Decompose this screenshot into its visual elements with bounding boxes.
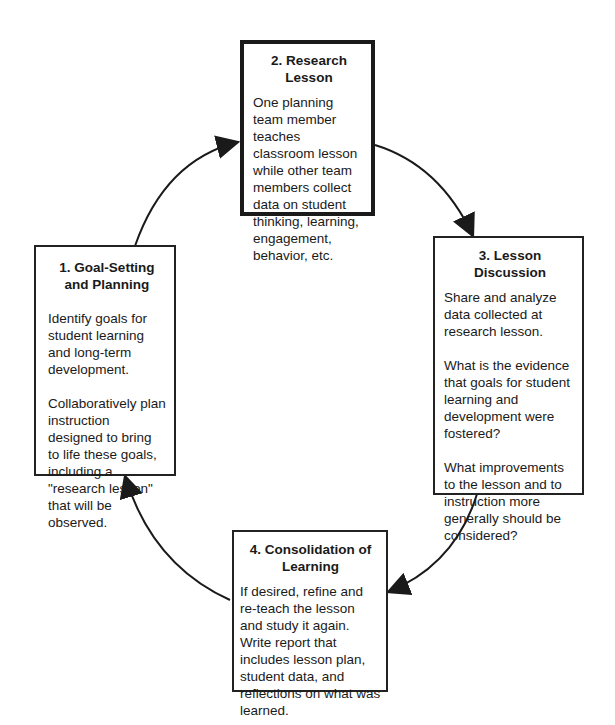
stage-paragraph: What improvements to the lesson and to i… <box>444 459 576 544</box>
stage-consolidation: 4. Consolidation of Learning If desired,… <box>232 530 388 692</box>
stage-paragraph: What is the evidence that goals for stud… <box>444 357 576 442</box>
stage-paragraph: Share and analyze data collected at rese… <box>444 289 576 340</box>
stage-paragraph: If desired, refine and re-teach the less… <box>240 583 381 719</box>
stage-title-line: 1. Goal-Setting <box>48 259 166 276</box>
stage-body: If desired, refine and re-teach the less… <box>240 583 381 719</box>
stage-paragraph: Collaboratively plan instruction designe… <box>48 395 166 531</box>
stage-body: Identify goals for student learning and … <box>48 310 166 531</box>
stage-research-lesson: 2. Research Lesson One planning team mem… <box>240 40 375 216</box>
stage-title-line: and Planning <box>48 276 166 293</box>
stage-lesson-discussion: 3. Lesson Discussion Share and analyze d… <box>433 236 584 495</box>
stage-title: 2. Research Lesson <box>253 52 365 86</box>
stage-title-line: 4. Consolidation of <box>240 541 381 558</box>
stage-goal-setting: 1. Goal-Setting and Planning Identify go… <box>34 245 176 476</box>
stage-title-line: Learning <box>240 558 381 575</box>
stage-title: 4. Consolidation of Learning <box>240 541 381 575</box>
stage-paragraph: Identify goals for student learning and … <box>48 310 166 378</box>
stage-body: Share and analyze data collected at rese… <box>444 289 576 544</box>
stage-title: 3. Lesson Discussion <box>444 247 576 281</box>
stage-title: 1. Goal-Setting and Planning <box>48 259 166 293</box>
stage-body: One planning team member teaches classro… <box>253 94 365 264</box>
stage-paragraph: One planning team member teaches classro… <box>253 94 365 264</box>
arrow-goal-to-research <box>135 142 238 246</box>
arrow-research-to-discussion <box>375 145 473 236</box>
